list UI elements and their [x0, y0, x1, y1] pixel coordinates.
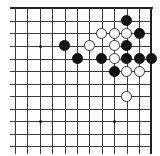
grid-line-vertical	[15, 8, 16, 154]
black-stone	[109, 66, 120, 77]
white-stone	[84, 40, 95, 51]
white-stone	[121, 66, 132, 77]
grid-line-horizontal	[10, 109, 152, 110]
black-stone	[96, 53, 107, 64]
white-stone	[121, 28, 132, 39]
white-stone	[96, 28, 107, 39]
white-stone	[109, 40, 120, 51]
black-stone	[72, 53, 83, 64]
grid-line-vertical	[65, 8, 66, 154]
white-stone	[109, 53, 120, 64]
black-stone	[134, 53, 145, 64]
black-stone	[59, 40, 70, 51]
star-point	[39, 120, 42, 123]
grid-line-horizontal	[10, 84, 152, 85]
board-edge-top	[10, 7, 153, 9]
go-board	[0, 0, 160, 156]
white-stone	[134, 66, 145, 77]
grid-line-vertical	[40, 8, 41, 154]
star-point	[39, 45, 42, 48]
grid-line-vertical	[52, 8, 53, 154]
grid-line-vertical	[77, 8, 78, 154]
grid-line-horizontal	[10, 134, 152, 135]
black-stone	[146, 53, 157, 64]
white-stone	[121, 91, 132, 102]
board-edge-right	[150, 8, 152, 154]
grid-line-horizontal	[10, 121, 152, 122]
white-stone	[109, 28, 120, 39]
black-stone	[121, 40, 132, 51]
black-stone	[134, 28, 145, 39]
black-stone	[121, 53, 132, 64]
black-stone	[121, 15, 132, 26]
star-point	[113, 120, 116, 123]
grid-line-vertical	[89, 8, 90, 154]
grid-line-vertical	[27, 8, 28, 154]
grid-line-horizontal	[10, 146, 152, 147]
